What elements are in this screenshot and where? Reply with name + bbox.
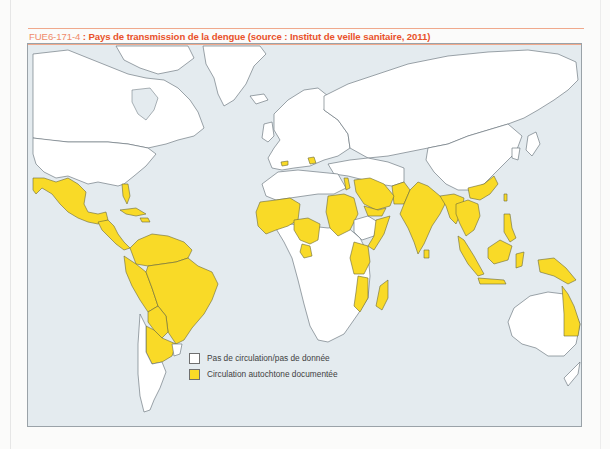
map-legend: Pas de circulation/pas de donnée Circula… — [189, 350, 338, 382]
world-map: Pas de circulation/pas de donnée Circula… — [27, 43, 582, 427]
region-central-southern-africa — [272, 222, 370, 342]
legend-item-transmission: Circulation autochtone documentée — [189, 366, 338, 382]
region-taiwan — [504, 194, 507, 201]
figure-code: FUE6-171-4 — [29, 31, 80, 42]
region-uk — [262, 122, 274, 142]
legend-label-transmission: Circulation autochtone documentée — [207, 369, 338, 379]
region-sri-lanka — [424, 250, 429, 258]
region-uruguay — [172, 344, 182, 356]
region-caribbean — [120, 208, 150, 222]
region-florida — [122, 184, 130, 204]
figure-title: Pays de transmission de la dengue (sourc… — [89, 31, 431, 42]
region-southern-france — [281, 161, 288, 166]
legend-swatch-yellow — [189, 369, 200, 380]
region-arctic-islands — [116, 46, 194, 74]
region-java — [478, 278, 506, 284]
region-papua-new-guinea — [538, 258, 576, 284]
legend-item-no-data: Pas de circulation/pas de donnée — [189, 350, 338, 366]
region-iceland — [250, 94, 268, 104]
page-right-edge-line — [600, 0, 601, 449]
region-borneo — [488, 240, 512, 264]
region-indochina — [456, 200, 480, 236]
region-madagascar — [376, 280, 388, 310]
caption-separator: : — [80, 31, 88, 42]
region-central-america — [98, 220, 130, 250]
region-philippines — [504, 214, 516, 242]
region-sulawesi — [516, 252, 524, 268]
region-mexico — [33, 178, 108, 224]
figure-caption: FUE6-171-4 : Pays de transmission de la … — [29, 31, 430, 42]
region-queensland — [562, 286, 580, 336]
region-malay-peninsula-sumatra — [458, 236, 484, 276]
caption-rule — [28, 28, 584, 29]
region-russia-central-asia — [324, 50, 578, 158]
legend-label-no-data: Pas de circulation/pas de donnée — [207, 353, 330, 363]
legend-swatch-white — [189, 353, 200, 364]
page-edge-line — [10, 0, 11, 449]
region-new-zealand — [564, 362, 580, 386]
